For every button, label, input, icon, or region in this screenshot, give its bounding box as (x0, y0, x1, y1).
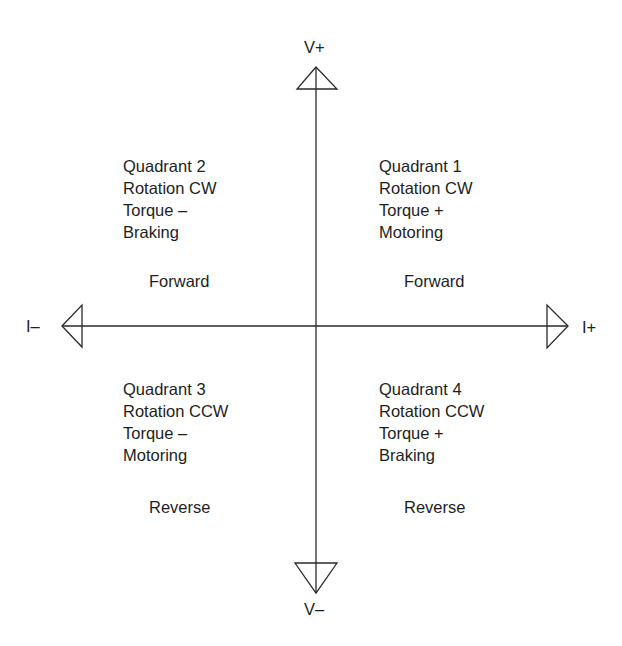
torque-text: Torque – (123, 199, 217, 221)
quadrant-1-direction: Forward (404, 270, 465, 292)
quadrant-title: Quadrant 2 (123, 155, 217, 177)
axis-label-v-plus: V+ (304, 36, 325, 58)
quadrant-title: Quadrant 4 (379, 378, 484, 400)
quadrant-3-direction: Reverse (149, 496, 210, 518)
mode-text: Motoring (379, 221, 473, 243)
mode-text: Braking (379, 444, 484, 466)
rotation-text: Rotation CW (379, 177, 473, 199)
quadrant-2-direction: Forward (149, 270, 210, 292)
rotation-text: Rotation CCW (379, 400, 484, 422)
four-quadrant-diagram (0, 0, 622, 646)
quadrant-1-description: Quadrant 1 Rotation CW Torque + Motoring (379, 155, 473, 243)
rotation-text: Rotation CCW (123, 400, 228, 422)
quadrant-2-description: Quadrant 2 Rotation CW Torque – Braking (123, 155, 217, 243)
axis-label-i-plus: I+ (582, 316, 596, 338)
quadrant-3-description: Quadrant 3 Rotation CCW Torque – Motorin… (123, 378, 228, 466)
torque-text: Torque + (379, 199, 473, 221)
arrowhead-up-icon (297, 67, 337, 89)
axis-label-i-minus: I– (26, 315, 40, 337)
rotation-text: Rotation CW (123, 177, 217, 199)
quadrant-4-description: Quadrant 4 Rotation CCW Torque + Braking (379, 378, 484, 466)
axis-label-v-minus: V– (304, 598, 324, 620)
mode-text: Motoring (123, 444, 228, 466)
torque-text: Torque + (379, 422, 484, 444)
torque-text: Torque – (123, 422, 228, 444)
quadrant-title: Quadrant 3 (123, 378, 228, 400)
quadrant-4-direction: Reverse (404, 496, 465, 518)
mode-text: Braking (123, 221, 217, 243)
quadrant-title: Quadrant 1 (379, 155, 473, 177)
